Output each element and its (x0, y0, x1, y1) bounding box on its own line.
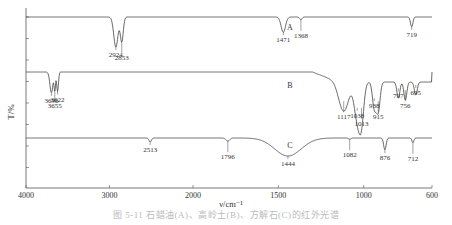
peak-label: 3622 (51, 96, 66, 104)
x-tick-label: 4000 (18, 191, 34, 200)
peak-label: 2513 (143, 146, 158, 154)
peak-label: 797 (393, 92, 404, 100)
peak-label: 1038 (350, 112, 365, 120)
peak-label: 876 (380, 154, 391, 162)
y-axis-label: T/% (6, 104, 16, 120)
peak-label: 1082 (343, 151, 358, 159)
peak-label: 1368 (294, 32, 309, 40)
x-tick-label: 1000 (356, 191, 372, 200)
x-tick-label: 1500 (270, 191, 286, 200)
peak-label: 756 (400, 102, 411, 110)
spectra-lines (26, 17, 432, 156)
series-label-A: A (287, 23, 293, 32)
peak-label: 1013 (354, 120, 369, 128)
x-tick-label: 2000 (185, 191, 201, 200)
x-tick-label: 3000 (102, 191, 118, 200)
peak-label: 712 (408, 155, 419, 163)
spectrum-A (26, 17, 432, 47)
series-label-C: C (287, 141, 292, 150)
peak-label: 719 (406, 31, 417, 39)
peak-label: 1471 (276, 36, 291, 44)
peak-label: 1444 (281, 160, 296, 168)
x-tick-label: 600 (426, 191, 438, 200)
peak-label: 2853 (115, 54, 130, 62)
peak-label: 915 (373, 113, 384, 121)
ir-spectrum-chart: A2924285314711368719B3696365536221117103… (0, 0, 452, 225)
series-label-B: B (287, 81, 292, 90)
figure-caption: 图 5-11 石蜡油(A)、高岭土(B)、方解石(C)的红外光谱 (0, 208, 452, 221)
x-axis: 40003000200015001000600 (18, 185, 438, 200)
peak-label: 1796 (221, 153, 236, 161)
peak-label: 1117 (337, 113, 351, 121)
peak-label: 695 (411, 89, 422, 97)
